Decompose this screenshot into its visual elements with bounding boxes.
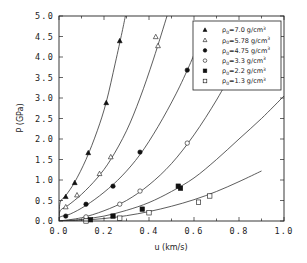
x-tick-label: 0.8 bbox=[230, 226, 249, 236]
open-square-marker bbox=[118, 216, 122, 220]
x-tick-label: 1.0 bbox=[275, 226, 294, 236]
hugoniot-chart: 0.00.20.40.60.81.0 0.00.51.01.52.02.53.0… bbox=[0, 0, 307, 263]
open-circle-marker bbox=[84, 215, 88, 219]
curve-series-1 bbox=[59, 16, 167, 221]
x-tick-labels: 0.00.20.40.60.81.0 bbox=[50, 226, 294, 236]
legend-label: ρ0=5.78 g/cm3 bbox=[222, 36, 270, 45]
legend-label: ρ0=4.75 g/cm3 bbox=[222, 46, 270, 55]
filled-square-marker bbox=[111, 214, 115, 218]
open-triangle-marker bbox=[75, 193, 80, 197]
x-tick-label: 0.4 bbox=[140, 226, 159, 236]
open-square-marker bbox=[147, 211, 151, 215]
legend-label: ρ0=1.3 g/cm3 bbox=[222, 77, 266, 86]
filled-square-marker bbox=[203, 69, 207, 73]
open-circle-marker bbox=[203, 59, 207, 63]
filled-triangle-marker bbox=[117, 38, 122, 42]
curve-series-2 bbox=[59, 49, 196, 221]
y-tick-labels: 0.00.51.01.52.02.53.03.54.04.55.0 bbox=[35, 11, 54, 226]
curve-series-0 bbox=[59, 16, 125, 221]
open-square-marker bbox=[196, 200, 200, 204]
curve-series-5 bbox=[59, 171, 262, 221]
filled-triangle-marker bbox=[104, 100, 109, 104]
open-circle-marker bbox=[118, 202, 122, 206]
y-tick-label: 0.0 bbox=[35, 216, 54, 226]
y-tick-label: 4.5 bbox=[35, 32, 54, 42]
open-square-marker bbox=[208, 194, 212, 198]
open-square-marker bbox=[203, 79, 207, 83]
open-circle-marker bbox=[138, 189, 142, 193]
legend: ρ0=7.0 g/cm3ρ0=5.78 g/cm3ρ0=4.75 g/cm3ρ0… bbox=[193, 21, 281, 90]
y-tick-label: 2.0 bbox=[35, 134, 54, 144]
open-triangle-marker bbox=[153, 34, 158, 38]
data-points bbox=[63, 34, 212, 223]
legend-label: ρ0=3.3 g/cm3 bbox=[222, 56, 266, 65]
x-tick-label: 0.2 bbox=[95, 226, 114, 236]
x-tick-label: 0.0 bbox=[50, 226, 69, 236]
filled-triangle-marker bbox=[72, 180, 77, 184]
y-tick-label: 3.0 bbox=[35, 93, 54, 103]
y-tick-label: 3.5 bbox=[35, 73, 54, 83]
y-tick-label: 5.0 bbox=[35, 11, 54, 21]
y-tick-label: 0.5 bbox=[35, 196, 54, 206]
x-axis-title: u (km/s) bbox=[154, 243, 187, 252]
filled-circle-marker bbox=[138, 150, 142, 154]
curve-series-4 bbox=[59, 96, 284, 221]
filled-circle-marker bbox=[84, 202, 88, 206]
x-tick-label: 0.6 bbox=[185, 226, 204, 236]
filled-square-marker bbox=[178, 186, 182, 190]
filled-triangle-marker bbox=[63, 194, 68, 198]
filled-circle-marker bbox=[64, 214, 68, 218]
open-triangle-marker bbox=[156, 43, 161, 47]
filled-circle-marker bbox=[203, 49, 207, 53]
open-circle-marker bbox=[185, 141, 189, 145]
filled-circle-marker bbox=[111, 184, 115, 188]
y-axis-title: P (GPa) bbox=[16, 103, 25, 132]
legend-label: ρ0=7.0 g/cm3 bbox=[222, 26, 266, 35]
y-tick-label: 2.5 bbox=[35, 114, 54, 124]
y-tick-label: 1.0 bbox=[35, 175, 54, 185]
filled-circle-marker bbox=[185, 68, 189, 72]
open-triangle-marker bbox=[63, 204, 68, 208]
y-tick-label: 1.5 bbox=[35, 155, 54, 165]
legend-label: ρ0=2.2 g/cm3 bbox=[222, 67, 266, 76]
filled-square-marker bbox=[140, 207, 144, 211]
y-tick-label: 4.0 bbox=[35, 52, 54, 62]
